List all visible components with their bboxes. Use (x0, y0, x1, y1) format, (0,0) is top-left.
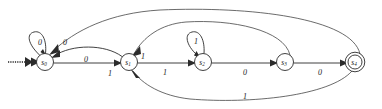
edge-label-s1-s0: 0 (84, 55, 88, 64)
start-arrow (8, 57, 40, 67)
edge-label-s4-s1: 1 (243, 92, 247, 101)
state-node-s3[interactable]: s3 (277, 54, 294, 71)
state-node-s1[interactable]: s1 (121, 54, 138, 71)
state-node-s4[interactable]: s4 (345, 52, 365, 72)
state-node-s2[interactable]: s2 (195, 54, 212, 71)
automaton-figure: s0 s1 s2 s3 s4 (0, 0, 382, 109)
state-node-s0[interactable]: s0 (37, 54, 54, 71)
state-sub-s2: 2 (202, 61, 205, 67)
edge-label-s4-s0: 0 (63, 38, 67, 47)
edge-label-s0-s0: 0 (38, 38, 42, 47)
edge-label-s1-s2: 1 (163, 68, 167, 77)
edge-s3-s1 (131, 22, 290, 57)
edge-label-s2-s2: 1 (194, 37, 198, 46)
state-sub-s4: 4 (354, 61, 357, 67)
edge-label-s0-s1: 1 (108, 69, 112, 78)
state-sub-s1: 1 (128, 61, 131, 67)
edge-label-s3-s4: 0 (318, 68, 322, 77)
state-sub-s0: 0 (44, 61, 47, 67)
edge-label-s3-s1: 1 (141, 52, 145, 61)
state-sub-s3: 3 (284, 61, 287, 67)
edge-s1-s2 (138, 60, 197, 67)
edge-s3-s4 (294, 60, 349, 67)
automaton-canvas: s0 s1 s2 s3 s4 (0, 0, 382, 109)
edge-label-s2-s3: 0 (243, 68, 247, 77)
edge-s2-s3 (212, 60, 279, 67)
